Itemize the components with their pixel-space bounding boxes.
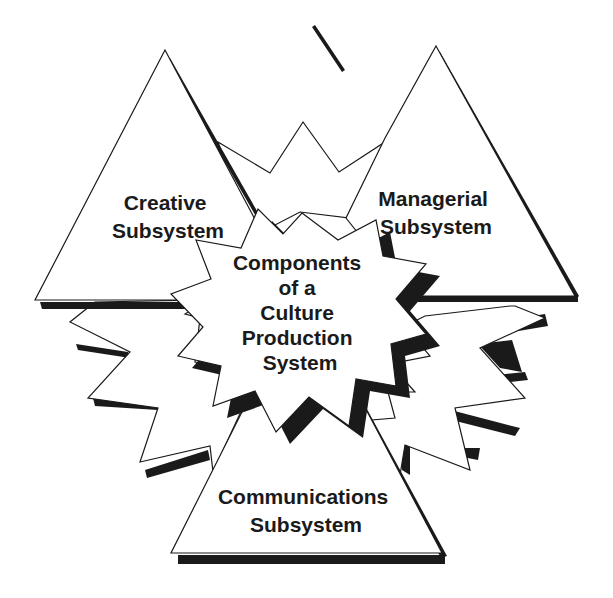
culture-production-system-diagram: Creative Subsystem Managerial Subsystem … [0, 0, 613, 598]
